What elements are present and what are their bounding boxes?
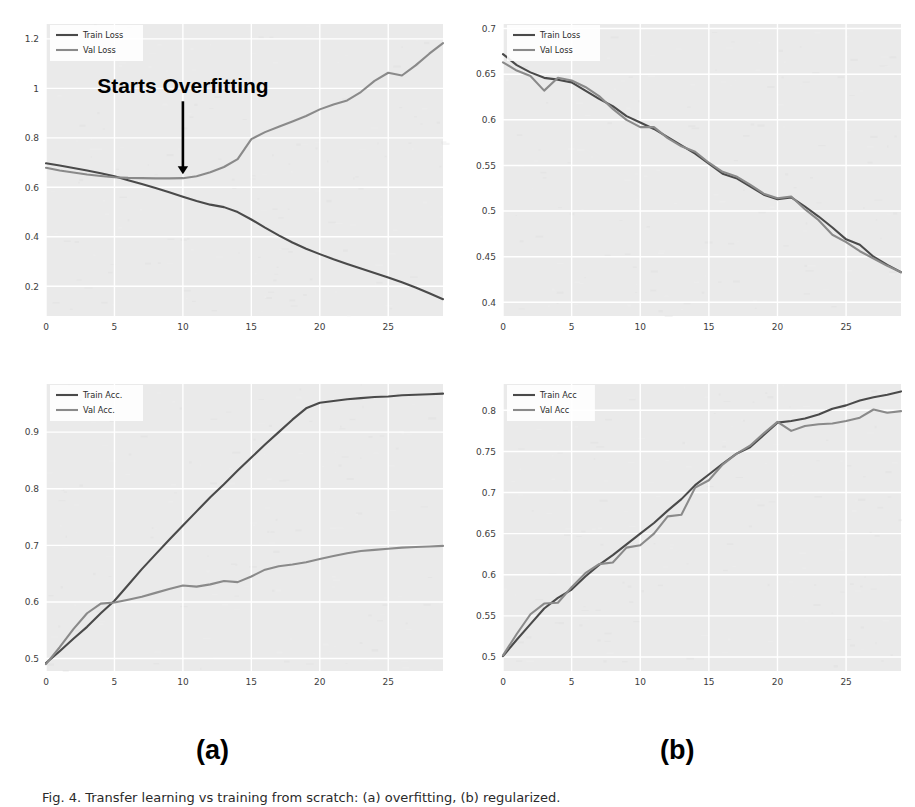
x-tick-label: 5 — [569, 677, 575, 687]
x-tick-label: 20 — [314, 677, 326, 687]
y-tick-label: 0.6 — [25, 597, 40, 607]
y-tick-label: 0.8 — [25, 484, 40, 494]
x-tick-label: 10 — [177, 322, 189, 332]
x-tick-label: 5 — [569, 322, 575, 332]
chart-panel-top-left: Train Loss: 0.110, Val Accuracy: 1.183 0… — [0, 14, 457, 374]
y-tick-label: 0.2 — [25, 282, 39, 292]
legend-label: Val Loss — [83, 45, 116, 55]
x-tick-label: 15 — [246, 677, 257, 687]
x-tick-label: 0 — [500, 677, 506, 687]
chart-panel-bottom-right: Train Accuracy: 0.823, Val Accuracy: 0.7… — [457, 374, 915, 724]
y-tick-label: 0.7 — [482, 24, 496, 34]
y-tick-label: 1.2 — [25, 34, 39, 44]
plot-area-bottom-right: 0.50.550.60.650.70.750.80510152025Train … — [457, 374, 915, 724]
x-tick-label: 20 — [772, 322, 784, 332]
annotation-label: Starts Overfitting — [97, 74, 269, 97]
y-tick-label: 0.6 — [482, 570, 497, 580]
y-tick-label: 0.5 — [482, 206, 496, 216]
y-tick-label: 0.6 — [482, 115, 497, 125]
plot-area-top-right: 0.40.450.50.550.60.650.70510152025Train … — [457, 14, 915, 374]
legend: Train AccVal Acc — [507, 385, 595, 421]
x-tick-label: 5 — [112, 677, 118, 687]
y-tick-label: 0.5 — [482, 652, 496, 662]
x-tick-label: 0 — [500, 322, 506, 332]
legend-label: Train Loss — [82, 30, 123, 40]
line-chart-top-right: 0.40.450.50.550.60.650.70510152025Train … — [457, 14, 915, 344]
x-tick-label: 10 — [635, 677, 647, 687]
y-tick-label: 0.55 — [476, 161, 496, 171]
x-tick-label: 15 — [246, 322, 257, 332]
legend-label: Train Loss — [539, 30, 580, 40]
figure-root: Train Loss: 0.110, Val Accuracy: 1.183 0… — [0, 0, 915, 807]
line-chart-top-left: 0.20.40.60.811.20510152025Starts Overfit… — [0, 14, 457, 344]
y-tick-label: 0.55 — [476, 611, 496, 621]
y-tick-label: 0.65 — [476, 69, 496, 79]
x-tick-label: 25 — [840, 677, 851, 687]
x-tick-label: 0 — [43, 677, 49, 687]
legend: Train LossVal Loss — [507, 25, 600, 61]
chart-panel-top-right: Train Loss: 0.398, Val Accuracy: 0.433 0… — [457, 14, 915, 374]
y-tick-label: 0.7 — [25, 541, 39, 551]
legend-label: Val Acc — [540, 405, 569, 415]
x-tick-label: 10 — [177, 677, 189, 687]
plot-area-top-left: 0.20.40.60.811.20510152025Starts Overfit… — [0, 14, 457, 374]
x-tick-label: 15 — [703, 677, 714, 687]
y-tick-label: 1 — [33, 84, 39, 94]
y-tick-label: 0.65 — [476, 529, 496, 539]
plot-area-bottom-left: 0.50.60.70.80.90510152025Train Acc.Val A… — [0, 374, 457, 724]
x-tick-label: 10 — [635, 322, 647, 332]
x-tick-label: 20 — [772, 677, 784, 687]
y-tick-label: 0.75 — [476, 447, 496, 457]
y-tick-label: 0.4 — [25, 232, 40, 242]
x-tick-label: 25 — [383, 677, 394, 687]
figure-caption: Fig. 4. Transfer learning vs training fr… — [42, 790, 882, 807]
y-tick-label: 0.8 — [25, 133, 40, 143]
y-tick-label: 0.8 — [482, 406, 497, 416]
line-chart-bottom-right: 0.50.550.60.650.70.750.80510152025Train … — [457, 374, 915, 699]
y-tick-label: 0.9 — [25, 427, 40, 437]
y-tick-label: 0.6 — [25, 183, 40, 193]
legend: Train Acc.Val Acc. — [50, 385, 143, 421]
y-tick-label: 0.4 — [482, 298, 497, 308]
x-tick-label: 25 — [840, 322, 851, 332]
legend: Train LossVal Loss — [50, 25, 143, 61]
x-tick-label: 0 — [43, 322, 49, 332]
legend-label: Val Loss — [540, 45, 573, 55]
x-tick-label: 25 — [383, 322, 394, 332]
legend-label: Train Acc. — [82, 390, 122, 400]
y-tick-label: 0.5 — [25, 654, 39, 664]
legend-label: Val Acc. — [83, 405, 115, 415]
line-chart-bottom-left: 0.50.60.70.80.90510152025Train Acc.Val A… — [0, 374, 457, 699]
chart-panel-bottom-left: Train Accuracy: 0.968, Val Accuracy: 0.6… — [0, 374, 457, 724]
panel-label-a: (a) — [196, 735, 229, 766]
y-tick-label: 0.45 — [476, 252, 496, 262]
x-tick-label: 5 — [112, 322, 118, 332]
y-tick-label: 0.7 — [482, 488, 496, 498]
x-tick-label: 15 — [703, 322, 714, 332]
x-tick-label: 20 — [314, 322, 326, 332]
panel-label-b: (b) — [660, 735, 694, 766]
legend-label: Train Acc — [539, 390, 577, 400]
